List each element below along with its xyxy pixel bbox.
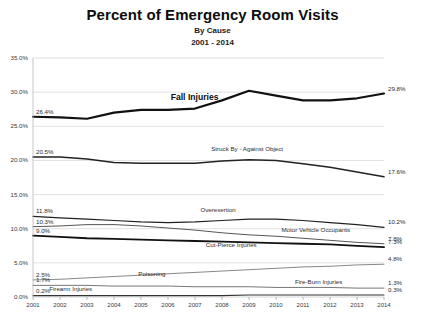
end-value-label: 7.3% bbox=[388, 238, 402, 245]
start-value-label: 0.2% bbox=[36, 287, 50, 294]
x-tick-label: 2010 bbox=[263, 302, 289, 308]
end-value-label: 4.8% bbox=[388, 255, 402, 262]
plot-area bbox=[0, 0, 425, 323]
x-tick-label: 2006 bbox=[155, 302, 181, 308]
start-value-label: 11.8% bbox=[36, 207, 53, 214]
end-value-label: 29.8% bbox=[388, 85, 406, 92]
x-tick-label: 2012 bbox=[317, 302, 343, 308]
y-tick-label: 35.0% bbox=[0, 54, 28, 61]
x-tick-label: 2014 bbox=[371, 302, 397, 308]
x-tick-label: 2009 bbox=[236, 302, 262, 308]
y-tick-label: 30.0% bbox=[0, 88, 28, 95]
x-tick-label: 2001 bbox=[20, 302, 46, 308]
series-line-struck-by-against-object bbox=[33, 157, 384, 177]
series-line-firearm-injuries bbox=[33, 295, 384, 296]
x-tick-label: 2005 bbox=[128, 302, 154, 308]
start-value-label: 9.0% bbox=[36, 227, 50, 234]
end-value-label: 17.6% bbox=[388, 168, 406, 175]
start-value-label: 26.4% bbox=[36, 108, 54, 115]
series-annotation: Poisoning bbox=[138, 270, 165, 277]
y-tick-label: 5.0% bbox=[0, 259, 28, 266]
series-lines bbox=[33, 91, 384, 296]
end-value-label: 0.3% bbox=[388, 286, 402, 293]
x-tick-label: 2011 bbox=[290, 302, 316, 308]
x-tick-label: 2007 bbox=[182, 302, 208, 308]
y-tick-label: 20.0% bbox=[0, 156, 28, 163]
y-tick-label: 10.0% bbox=[0, 225, 28, 232]
y-tick-label: 25.0% bbox=[0, 122, 28, 129]
start-value-label: 10.3% bbox=[36, 218, 54, 225]
x-tick-label: 2002 bbox=[47, 302, 73, 308]
x-tick-label: 2013 bbox=[344, 302, 370, 308]
x-tick-label: 2008 bbox=[209, 302, 235, 308]
series-annotation: Struck By - Against Object bbox=[211, 145, 283, 152]
x-tick-label: 2004 bbox=[101, 302, 127, 308]
y-tick-label: 0.0% bbox=[0, 293, 28, 300]
start-value-label: 1.7% bbox=[36, 276, 50, 283]
y-tick-label: 15.0% bbox=[0, 191, 28, 198]
series-annotation: Fire-Burn Injuries bbox=[295, 278, 342, 285]
series-annotation: Motor Vehicle Occupants bbox=[281, 226, 350, 233]
series-annotation: Cut-Pierce Injuries bbox=[206, 241, 257, 248]
series-annotation: Fall Injuries bbox=[171, 92, 219, 102]
x-tick-label: 2003 bbox=[74, 302, 100, 308]
chart-container: Percent of Emergency Room Visits By Caus… bbox=[0, 0, 425, 323]
series-annotation: Firearm Injuries bbox=[49, 285, 92, 292]
series-annotation: Overexertion bbox=[200, 206, 235, 213]
end-value-label: 10.2% bbox=[388, 218, 406, 225]
start-value-label: 20.5% bbox=[36, 148, 54, 155]
